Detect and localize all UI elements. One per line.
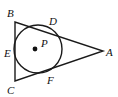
vertex-label-b: B bbox=[7, 7, 14, 19]
inscribed-circle bbox=[14, 25, 62, 73]
triangle-abc bbox=[15, 22, 103, 81]
geometry-figure: B C A D E F P bbox=[0, 0, 118, 97]
tangent-label-f: F bbox=[46, 74, 54, 86]
figure-canvas: B C A D E F P bbox=[0, 0, 118, 97]
tangent-label-d: D bbox=[48, 15, 57, 27]
center-point-dot bbox=[33, 47, 38, 52]
vertex-label-c: C bbox=[7, 84, 15, 96]
center-label-p: P bbox=[40, 37, 48, 49]
vertex-label-a: A bbox=[105, 46, 113, 58]
tangent-label-e: E bbox=[3, 47, 11, 59]
